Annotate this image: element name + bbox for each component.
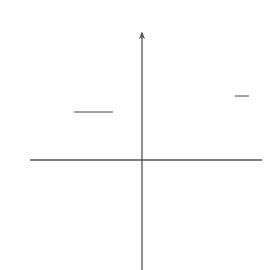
graph xyxy=(0,0,269,270)
